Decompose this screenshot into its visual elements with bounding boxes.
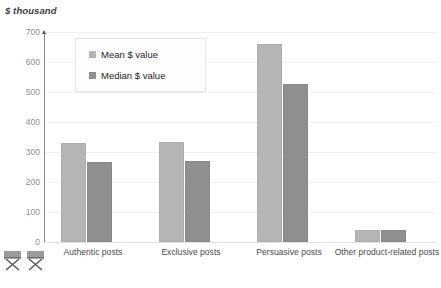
placeholder-icons: [3, 249, 45, 271]
y-axis-tick-labels: 0100200300400500600700: [0, 0, 40, 288]
gridline: [44, 122, 436, 123]
y-axis-arrow-icon: [42, 30, 46, 34]
y-axis-tick-label: 100: [0, 207, 40, 217]
legend-swatch-median-icon: [89, 72, 96, 79]
x-axis-line: [44, 242, 436, 243]
bar-mean: [355, 230, 380, 243]
bar-median: [283, 84, 308, 242]
legend-swatch-mean-icon: [89, 51, 96, 58]
bar-median: [185, 161, 210, 242]
x-axis-category-label: Authentic posts: [38, 247, 148, 258]
gridline: [44, 152, 436, 153]
bar-median: [87, 162, 112, 242]
y-axis-tick-label: 600: [0, 57, 40, 67]
bar-median: [381, 230, 406, 242]
y-axis-line: [44, 32, 45, 243]
legend-item-median: Median $ value: [89, 70, 165, 81]
gridline: [44, 92, 436, 93]
y-axis-tick-label: 400: [0, 117, 40, 127]
bar-chart: $ thousand 0100200300400500600700 Authen…: [0, 0, 441, 288]
y-axis-tick-label: 0: [0, 237, 40, 247]
x-axis-category-label: Exclusive posts: [136, 247, 246, 258]
broken-image-icon: [3, 249, 22, 271]
y-axis-tick-label: 500: [0, 87, 40, 97]
legend: Mean $ value Median $ value: [75, 38, 206, 92]
y-axis-tick-label: 300: [0, 147, 40, 157]
bar-mean: [257, 44, 282, 243]
y-axis-tick-label: 200: [0, 177, 40, 187]
legend-label-mean: Mean $ value: [101, 49, 158, 60]
legend-label-median: Median $ value: [101, 70, 165, 81]
gridline: [44, 32, 436, 33]
x-axis-category-label: Persuasive posts: [234, 247, 344, 258]
y-axis-tick-label: 700: [0, 27, 40, 37]
broken-image-icon: [26, 249, 45, 271]
bar-mean: [159, 142, 184, 242]
legend-item-mean: Mean $ value: [89, 49, 158, 60]
bar-mean: [61, 143, 86, 243]
x-axis-category-label: Other product-related posts: [332, 247, 441, 258]
